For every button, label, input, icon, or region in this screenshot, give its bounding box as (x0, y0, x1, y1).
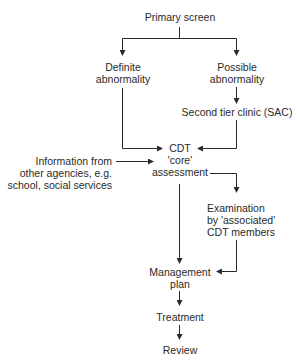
node-second-tier-clinic: Second tier clinic (SAC) (178, 106, 296, 118)
node-cdt-core-assessment: CDT 'core' assessment (145, 142, 215, 178)
node-management-plan: Management plan (140, 266, 220, 290)
node-definite-abnormality: Definite abnormality (82, 61, 164, 85)
node-examination-associated: Examination by 'associated' CDT members (207, 202, 297, 238)
node-information-from-agencies: Information from other agencies, e.g. sc… (0, 155, 112, 191)
node-review: Review (140, 344, 220, 356)
node-treatment: Treatment (140, 311, 220, 323)
node-possible-abnormality: Possible abnormality (196, 61, 278, 85)
node-primary-screen: Primary screen (130, 11, 230, 23)
